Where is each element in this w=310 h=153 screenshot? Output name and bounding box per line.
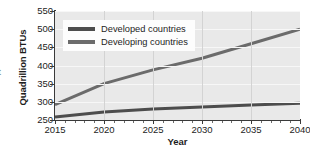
- legend-swatch-icon: [68, 27, 95, 30]
- gridline-horizontal: [55, 84, 300, 85]
- x-minor-tick-mark: [114, 121, 115, 123]
- chart-legend: Developed countries Developing countries: [63, 20, 195, 51]
- gridline-vertical: [202, 11, 203, 120]
- y-tick-mark: [50, 29, 54, 30]
- chart-figure: t Quadrillion BTUs 250300350400450500550…: [0, 0, 310, 153]
- x-minor-tick-mark: [94, 121, 95, 123]
- y-tick-mark: [50, 120, 54, 121]
- legend-swatch-icon: [68, 40, 95, 43]
- x-minor-tick-mark: [290, 121, 291, 123]
- x-minor-tick-mark: [231, 121, 232, 123]
- x-axis-title: Year: [55, 136, 300, 147]
- x-minor-tick-mark: [143, 121, 144, 123]
- x-minor-tick-mark: [280, 121, 281, 123]
- x-minor-tick-mark: [173, 121, 174, 123]
- x-minor-tick-mark: [163, 121, 164, 123]
- y-tick-mark: [50, 66, 54, 67]
- x-minor-tick-mark: [241, 121, 242, 123]
- x-tick-label: 2015: [35, 124, 75, 135]
- x-tick-label: 2040: [280, 124, 310, 135]
- x-minor-tick-mark: [84, 121, 85, 123]
- x-tick-label: 2035: [231, 124, 271, 135]
- x-minor-tick-mark: [261, 121, 262, 123]
- gridline-vertical: [251, 11, 252, 120]
- x-minor-tick-mark: [133, 121, 134, 123]
- x-minor-tick-mark: [182, 121, 183, 123]
- clipped-edge-text: t: [0, 66, 3, 76]
- x-minor-tick-mark: [65, 121, 66, 123]
- y-tick-mark: [50, 47, 54, 48]
- x-tick-label: 2025: [133, 124, 173, 135]
- legend-label: Developing countries: [101, 37, 188, 47]
- legend-label: Developed countries: [101, 24, 186, 34]
- x-tick-label: 2020: [84, 124, 124, 135]
- gridline-horizontal: [55, 66, 300, 67]
- gridline-horizontal: [55, 11, 300, 12]
- x-minor-tick-mark: [212, 121, 213, 123]
- gridline-horizontal: [55, 102, 300, 103]
- y-tick-mark: [50, 102, 54, 103]
- y-tick-mark: [50, 11, 54, 12]
- x-tick-label: 2030: [182, 124, 222, 135]
- series-line: [55, 103, 300, 117]
- x-minor-tick-mark: [75, 121, 76, 123]
- x-minor-tick-mark: [124, 121, 125, 123]
- x-minor-tick-mark: [192, 121, 193, 123]
- x-minor-tick-mark: [222, 121, 223, 123]
- legend-item-developing: Developing countries: [68, 37, 188, 47]
- x-minor-tick-mark: [271, 121, 272, 123]
- legend-item-developed: Developed countries: [68, 24, 188, 34]
- y-tick-mark: [50, 84, 54, 85]
